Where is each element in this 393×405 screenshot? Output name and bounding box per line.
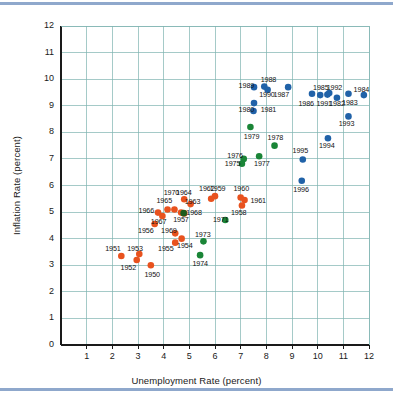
y-tick-label: 2 xyxy=(36,286,54,296)
y-tick-label: 9 xyxy=(36,100,54,110)
x-tick-label: 3 xyxy=(129,351,147,361)
data-point-label: 1951 xyxy=(105,244,121,253)
data-point xyxy=(208,195,215,202)
y-axis-title: Inflation Rate (percent) xyxy=(11,106,22,266)
y-tick-label: 8 xyxy=(36,126,54,136)
data-point-label: 1973 xyxy=(195,230,211,239)
data-point xyxy=(299,156,306,163)
data-point-label: 1952 xyxy=(121,263,137,272)
chart-figure: 0123456789101112123456789101112 19501951… xyxy=(0,0,393,405)
y-tick-label: 4 xyxy=(36,233,54,243)
data-point-label: 1986 xyxy=(298,99,314,108)
data-point xyxy=(298,177,305,184)
x-tick-label: 11 xyxy=(334,351,352,361)
data-point-label: 1989 xyxy=(239,81,255,90)
x-tick-label: 7 xyxy=(232,351,250,361)
y-tick-label: 12 xyxy=(36,20,54,30)
data-point xyxy=(164,206,171,213)
y-tick-label: 7 xyxy=(36,153,54,163)
data-point-label: 1991 xyxy=(316,99,332,108)
x-tick-label: 4 xyxy=(155,351,173,361)
data-point-label: 1955 xyxy=(158,244,174,253)
data-point-label: 1958 xyxy=(231,208,247,217)
data-point-label: 1994 xyxy=(319,141,335,150)
x-tick-label: 10 xyxy=(309,351,327,361)
y-tick-label: 0 xyxy=(36,339,54,349)
data-point-label: 1992 xyxy=(327,83,343,92)
data-point-label: 1995 xyxy=(293,146,309,155)
data-point-label: 1954 xyxy=(177,241,193,250)
data-point-label: 1977 xyxy=(254,159,270,168)
data-point-label: 1969 xyxy=(161,226,177,235)
data-point xyxy=(247,124,254,131)
data-point-label: 1956 xyxy=(138,226,154,235)
data-point-label: 1963 xyxy=(185,197,201,206)
data-point xyxy=(241,197,248,204)
x-tick-label: 8 xyxy=(257,351,275,361)
data-point-label: 1961 xyxy=(250,196,266,205)
data-point xyxy=(197,252,204,259)
data-point-label: 1979 xyxy=(244,132,260,141)
y-tick-label: 6 xyxy=(36,180,54,190)
data-point xyxy=(345,90,352,97)
data-point-label: 1990 xyxy=(259,90,275,99)
data-point xyxy=(148,262,155,269)
data-point-label: 1984 xyxy=(354,85,370,94)
data-point xyxy=(171,206,178,213)
data-point-label: 1978 xyxy=(268,133,284,142)
data-point-label: 1965 xyxy=(156,196,172,205)
data-point-label: 1976 xyxy=(227,151,243,160)
y-tick-label: 5 xyxy=(36,206,54,216)
y-tick-label: 11 xyxy=(36,47,54,57)
x-tick-label: 6 xyxy=(206,351,224,361)
data-point-label: 1987 xyxy=(274,90,290,99)
y-tick-label: 10 xyxy=(36,73,54,83)
x-axis-title: Unemployment Rate (percent) xyxy=(0,375,393,386)
data-point-label: 1981 xyxy=(261,105,277,114)
data-point-label: 1993 xyxy=(339,119,355,128)
data-point-label: 1960 xyxy=(233,184,249,193)
data-point-label: 1974 xyxy=(192,259,208,268)
data-point xyxy=(271,142,278,149)
data-point xyxy=(317,92,324,99)
data-point-label: 1970 xyxy=(164,188,180,197)
x-tick-label: 9 xyxy=(283,351,301,361)
data-point xyxy=(118,253,125,260)
x-tick-label: 2 xyxy=(103,351,121,361)
y-tick-label: 1 xyxy=(36,312,54,322)
data-point-label: 1980 xyxy=(239,105,255,114)
data-point xyxy=(200,238,207,245)
data-point-label: 1983 xyxy=(342,98,358,107)
data-point-label: 1962 xyxy=(199,184,215,193)
x-tick-label: 12 xyxy=(360,351,378,361)
data-point-label: 1950 xyxy=(144,270,160,279)
y-tick-label: 3 xyxy=(36,259,54,269)
data-point-label: 1988 xyxy=(261,75,277,84)
data-point-label: 1975 xyxy=(225,159,241,168)
data-point-label: 1966 xyxy=(139,206,155,215)
data-point-label: 1971 xyxy=(213,215,229,224)
x-tick-label: 1 xyxy=(78,351,96,361)
x-tick-label: 5 xyxy=(180,351,198,361)
data-point-label: 1968 xyxy=(186,208,202,217)
data-point-label: 1953 xyxy=(127,244,143,253)
data-point-label: 1996 xyxy=(293,185,309,194)
